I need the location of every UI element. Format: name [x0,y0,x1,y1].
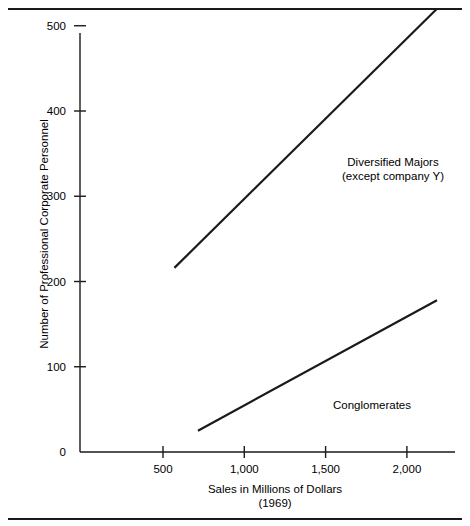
series-line-diversified-majors [174,9,437,268]
x-axis-tick-label: 500 [133,463,193,475]
axis-lines [80,33,455,452]
x-axis-subtitle: (1969) [135,496,415,510]
series-label-conglomerates: Conglomerates [312,398,432,412]
x-axis-title-block: Sales in Millions of Dollars (1969) [135,482,415,510]
x-axis-title: Sales in Millions of Dollars [135,482,415,496]
plot-area [0,0,470,526]
data-series-lines [174,9,437,431]
y-axis-tick-label: 0 [26,446,66,458]
series-label-conglomerates-line1: Conglomerates [312,398,432,412]
series-label-diversified-majors-line1: Diversified Majors [318,155,468,169]
chart-figure: 0100200300400500 5001,0001,5002,000 Numb… [0,0,470,526]
x-axis-tick-label: 2,000 [377,463,437,475]
y-axis-tick-label: 500 [26,20,66,32]
series-label-diversified-majors-line2: (except company Y) [318,169,468,183]
series-label-diversified-majors: Diversified Majors (except company Y) [318,155,468,183]
y-axis-title: Number of Professional Corporate Personn… [38,104,50,364]
x-axis-tick-label: 1,000 [214,463,274,475]
x-axis-tick-label: 1,500 [296,463,356,475]
